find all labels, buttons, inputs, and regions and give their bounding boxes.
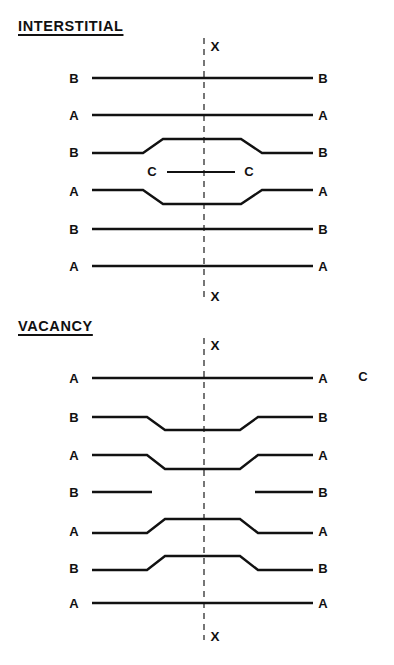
row-label-left-v2: A bbox=[69, 448, 78, 463]
row-label-right-v3: B bbox=[318, 485, 327, 500]
row-label-right-i0: B bbox=[318, 71, 327, 86]
row-label-left-i0: B bbox=[69, 71, 78, 86]
row-label-right-v0: A bbox=[318, 371, 327, 386]
row-label-left-i1: A bbox=[69, 108, 78, 123]
row-label-right-i3: A bbox=[318, 184, 327, 199]
row-label-right-v5: B bbox=[318, 561, 327, 576]
plane-v5 bbox=[92, 556, 313, 570]
row-label-right-v6: A bbox=[318, 596, 327, 611]
plane-v1 bbox=[92, 417, 313, 430]
row-label-left-v0: A bbox=[69, 371, 78, 386]
row-label-left-i4: B bbox=[69, 222, 78, 237]
plane-v2 bbox=[92, 455, 313, 469]
row-label-right-i2: B bbox=[318, 145, 327, 160]
row-label-right-i5: A bbox=[318, 259, 327, 274]
interstitial-label-c-left: C bbox=[147, 164, 156, 179]
plane-v4 bbox=[92, 519, 313, 533]
row-label-right-i1: A bbox=[318, 108, 327, 123]
row-label-left-v1: B bbox=[69, 410, 78, 425]
plane-i2 bbox=[92, 139, 313, 153]
row-label-left-v3: B bbox=[69, 485, 78, 500]
row-label-left-v6: A bbox=[69, 596, 78, 611]
row-label-left-i5: A bbox=[69, 259, 78, 274]
plane-i3 bbox=[92, 190, 313, 204]
row-label-left-i2: B bbox=[69, 145, 78, 160]
row-label-left-i3: A bbox=[69, 184, 78, 199]
row-label-right-i4: B bbox=[318, 222, 327, 237]
interstitial-label-c-right: C bbox=[244, 164, 253, 179]
axis-label-x-bottom-vacancy: X bbox=[210, 629, 219, 644]
row-label-right-v1: B bbox=[318, 410, 327, 425]
section-title-vacancy: VACANCY bbox=[18, 318, 93, 334]
row-label-right-v2: A bbox=[318, 448, 327, 463]
axis-label-x-top-interstitial: X bbox=[210, 39, 219, 54]
axis-label-x-top-vacancy: X bbox=[210, 338, 219, 353]
row-label-right-v4: A bbox=[318, 524, 327, 539]
axis-label-x-bottom-interstitial: X bbox=[210, 289, 219, 304]
vacancy-stray-label-c: C bbox=[358, 369, 367, 384]
row-label-left-v5: B bbox=[69, 561, 78, 576]
row-label-left-v4: A bbox=[69, 524, 78, 539]
section-title-interstitial: INTERSTITIAL bbox=[18, 18, 123, 34]
defect-diagram: INTERSTITIAL VACANCY X X X X B A B A B A… bbox=[0, 0, 394, 665]
